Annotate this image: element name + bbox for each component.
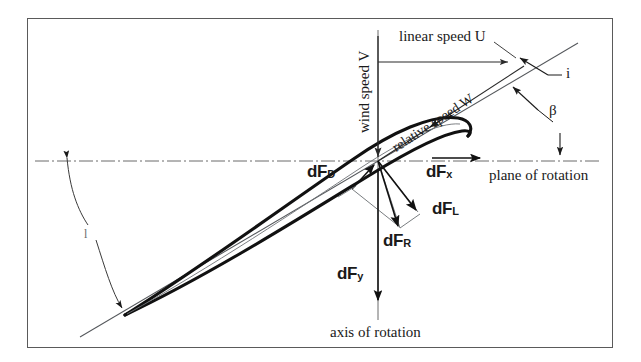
incidence-angle-label: i [566, 66, 570, 81]
beta-angle-marker [513, 87, 560, 155]
plane-of-rotation-label: plane of rotation [489, 168, 588, 183]
lift-force-vector [378, 161, 416, 210]
resultant-force-subscript: R [403, 237, 411, 249]
pitch-angle-label: l [84, 228, 87, 240]
drag-force-label: dFD [307, 163, 335, 180]
axial-force-symbol: dF [337, 264, 357, 283]
pitch-angle-marker [67, 158, 122, 308]
wind-speed-label: wind speed V [357, 51, 372, 133]
drag-force-subscript: D [327, 168, 335, 180]
resultant-force-vector [378, 161, 398, 226]
resultant-force-symbol: dF [383, 231, 403, 250]
figure-canvas: wind speed V linear speed U relative spe… [0, 0, 641, 362]
lift-force-label: dFL [432, 200, 459, 217]
lift-force-symbol: dF [432, 199, 452, 218]
chord-line [80, 43, 578, 337]
linear-speed-label: linear speed U [399, 29, 486, 44]
tangential-force-label: dFx [426, 163, 452, 180]
beta-angle-label: β [549, 103, 557, 118]
incidence-angle-marker [520, 58, 562, 75]
lift-force-subscript: L [452, 205, 458, 217]
linear-speed-vector [378, 42, 516, 62]
axial-force-label: dFy [337, 265, 363, 282]
axis-of-rotation-label: axis of rotation [330, 325, 421, 340]
tangential-force-symbol: dF [426, 162, 446, 181]
drag-force-symbol: dF [307, 162, 327, 181]
tangential-force-subscript: x [446, 168, 452, 180]
airfoil-section [125, 117, 471, 315]
axial-force-subscript: y [357, 270, 363, 282]
resultant-force-label: dFR [383, 232, 411, 249]
